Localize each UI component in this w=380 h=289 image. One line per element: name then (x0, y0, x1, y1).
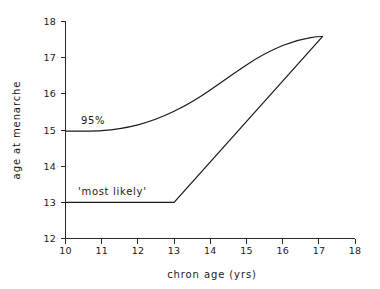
x-tick-label: 11 (95, 245, 108, 256)
chart-canvas: 12 13 14 15 16 17 18 10 11 12 13 14 (0, 0, 380, 289)
x-tick-label: 17 (313, 245, 326, 256)
x-tick-label: 12 (132, 245, 145, 256)
y-tick-label: 14 (44, 161, 57, 172)
y-tick-label: 17 (44, 52, 57, 63)
x-tick-label: 18 (349, 245, 362, 256)
chart-figure: 12 13 14 15 16 17 18 10 11 12 13 14 (0, 0, 380, 289)
y-axis-title: age at menarche (11, 81, 22, 180)
x-tick-label: 13 (168, 245, 181, 256)
y-tick-label: 13 (44, 197, 57, 208)
annotation-most-likely: 'most likely' (78, 186, 147, 197)
y-tick-label: 12 (44, 233, 57, 244)
x-axis-title: chron age (yrs) (167, 269, 257, 280)
x-tick-label: 16 (276, 245, 289, 256)
x-tick-label: 15 (240, 245, 253, 256)
y-tick-label: 16 (44, 88, 57, 99)
x-axis-tick-labels: 10 11 12 13 14 15 16 17 18 (59, 245, 361, 256)
y-tick-label: 18 (44, 16, 57, 27)
x-tick-label: 10 (59, 245, 72, 256)
y-tick-label: 15 (44, 125, 57, 136)
x-tick-label: 14 (204, 245, 217, 256)
annotation-95-percent: 95% (81, 115, 105, 126)
